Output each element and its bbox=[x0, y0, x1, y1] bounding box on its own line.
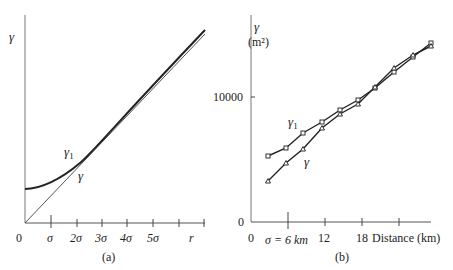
panel-a-x-tick-2: 2σ bbox=[70, 231, 83, 245]
panel-b-y-label: γ bbox=[254, 19, 260, 34]
panel-b-y-tick-0: 0 bbox=[238, 215, 244, 229]
panel-a: γ γ1 γ 0 σ 2σ 3σ 4σ 5σ r (a) bbox=[9, 15, 205, 264]
panel-a-caption: (a) bbox=[102, 250, 115, 264]
panel-b: γ (m²) 10000 0 γ1 γ 0 σ = 6 km 12 18 Dis… bbox=[213, 15, 440, 264]
panel-b-x-tick-12: 12 bbox=[318, 231, 330, 245]
panel-a-x-tick-4: 4σ bbox=[120, 231, 133, 245]
panel-a-gamma-line bbox=[25, 34, 205, 223]
panel-b-gamma1-label: γ1 bbox=[288, 114, 298, 131]
panel-b-x-ticks bbox=[288, 212, 399, 229]
panel-a-x-tick-5: 5σ bbox=[147, 231, 160, 245]
panel-a-y-label: γ bbox=[9, 29, 15, 44]
panel-b-x-tick-18: 18 bbox=[356, 231, 368, 245]
panel-a-gamma1-curve bbox=[25, 30, 205, 189]
panel-a-gamma-label: γ bbox=[78, 168, 84, 183]
panel-a-x-tick-r: r bbox=[189, 231, 194, 245]
panel-b-y-tick-10000: 10000 bbox=[213, 90, 243, 104]
panel-a-gamma1-label: γ1 bbox=[64, 144, 74, 161]
panel-a-x-ticks bbox=[51, 215, 204, 228]
panel-a-x-tick-0: 0 bbox=[16, 231, 22, 245]
panel-b-x-tick-sigma: σ = 6 km bbox=[265, 233, 308, 247]
panel-b-x-axis-title: Distance (km) bbox=[372, 231, 440, 245]
panel-a-x-tick-3: 3σ bbox=[94, 231, 108, 245]
panel-b-y-unit: (m²) bbox=[248, 35, 269, 49]
panel-b-caption: (b) bbox=[335, 250, 349, 264]
panel-b-gamma-label: γ bbox=[304, 154, 310, 169]
panel-b-x-tick-0: 0 bbox=[248, 231, 254, 245]
panel-a-x-tick-1: σ bbox=[47, 231, 54, 245]
